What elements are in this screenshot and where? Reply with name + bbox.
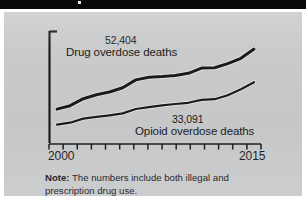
figure-note-text: The numbers include both illegal and pre… <box>45 172 229 196</box>
drug-overdose-series-label: Drug overdose deaths <box>66 46 177 58</box>
x-tick-label-start: 2000 <box>48 149 74 163</box>
banner-mark-icon <box>78 1 81 4</box>
x-axis-ticks <box>49 144 261 150</box>
drug-overdose-value-label: 52,404 <box>105 34 137 46</box>
series-drug-highlight <box>57 49 254 109</box>
opioid-overdose-series-label: Opioid overdose deaths <box>135 125 254 137</box>
series-opioid-overdose-line <box>57 82 254 124</box>
figure-note-prefix: Note: <box>45 172 70 183</box>
chart-panel: 52,404 Drug overdose deaths 33,091 Opioi… <box>4 12 302 196</box>
opioid-overdose-value-label: 33,091 <box>172 113 204 125</box>
figure-note: Note: The numbers include both illegal a… <box>45 172 255 197</box>
x-tick-label-end: 2015 <box>239 149 265 163</box>
top-black-banner <box>0 0 306 9</box>
line-chart <box>4 12 302 196</box>
figure-root: 52,404 Drug overdose deaths 33,091 Opioi… <box>0 0 306 205</box>
